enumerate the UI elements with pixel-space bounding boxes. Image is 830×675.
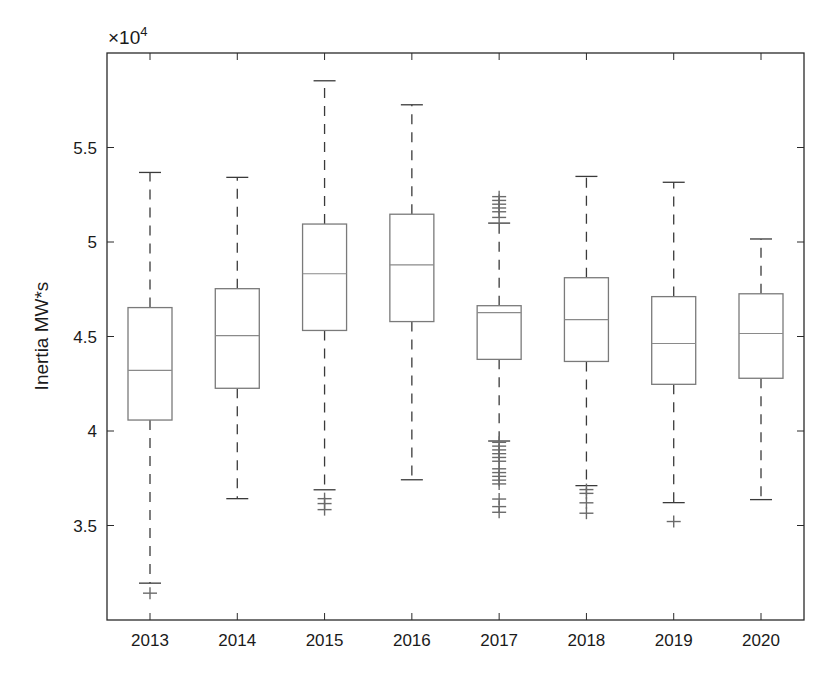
box-2013 xyxy=(128,172,172,599)
box-2018 xyxy=(564,176,608,519)
y-tick-label: 5.5 xyxy=(73,139,97,158)
axes-frame xyxy=(107,53,804,620)
x-tick-label: 2016 xyxy=(393,631,431,650)
boxplot-chart: 3.544.555.520132014201520162017201820192… xyxy=(0,0,830,675)
box-2017 xyxy=(477,191,521,519)
box-2019 xyxy=(652,182,696,527)
y-exponent-label: ×104 xyxy=(108,24,147,48)
x-tick-label: 2015 xyxy=(306,631,344,650)
iqr-box xyxy=(477,306,521,360)
box-2016 xyxy=(390,105,434,480)
x-tick-label: 2019 xyxy=(655,631,693,650)
x-tick-label: 2018 xyxy=(568,631,606,650)
y-tick-label: 4.5 xyxy=(73,328,97,347)
iqr-box xyxy=(128,308,172,420)
x-tick-label: 2017 xyxy=(480,631,518,650)
box-2014 xyxy=(215,177,259,498)
iqr-box xyxy=(739,294,783,378)
iqr-box xyxy=(652,297,696,385)
boxes xyxy=(128,81,783,599)
iqr-box xyxy=(303,224,347,330)
x-tick-label: 2013 xyxy=(131,631,169,650)
y-tick-label: 4 xyxy=(88,422,97,441)
iqr-box xyxy=(390,214,434,321)
y-axis-label: Inertia MW*s xyxy=(31,282,52,391)
box-2020 xyxy=(739,239,783,500)
y-tick-label: 3.5 xyxy=(73,517,97,536)
x-tick-label: 2014 xyxy=(218,631,256,650)
iqr-box xyxy=(215,289,259,389)
y-tick-label: 5 xyxy=(88,233,97,252)
box-2015 xyxy=(303,81,347,516)
x-tick-label: 2020 xyxy=(742,631,780,650)
